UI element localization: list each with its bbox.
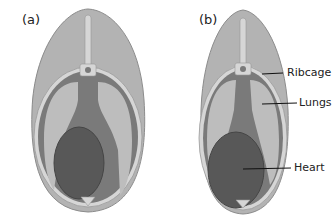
thorax-diagram (0, 0, 335, 224)
heart-a (54, 127, 104, 199)
heart-b (208, 132, 264, 208)
callout-ribcage: Ribcage (287, 66, 331, 79)
panel-a-figure (32, 9, 145, 212)
sternum-b (240, 18, 246, 68)
panel-label-b: (b) (199, 12, 217, 27)
spinal-canal-b (240, 66, 246, 72)
spinal-canal-a (85, 67, 91, 73)
callout-heart: Heart (294, 161, 325, 174)
panel-label-a: (a) (22, 12, 40, 27)
sternum-a (85, 15, 91, 70)
callout-lungs: Lungs (299, 96, 332, 109)
panel-b-figure (199, 10, 297, 214)
